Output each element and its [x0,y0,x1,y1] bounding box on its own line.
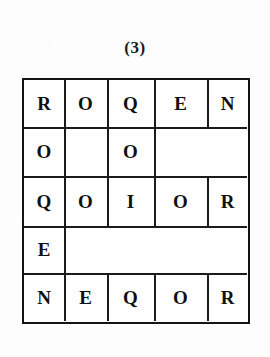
cell-letter: E [174,94,187,113]
grid-cell: E [24,227,64,274]
grid-cell: N [24,274,64,322]
grid-cell: N [207,80,248,128]
grid-cell: R [24,80,64,128]
grid-cell: Q [107,80,154,128]
cell-letter: R [221,192,235,211]
grid-cell-merged [154,128,248,177]
figure-caption: (3) [0,38,270,58]
cell-letter: R [37,94,51,113]
grid-cell: Q [107,274,154,322]
grid-cell-empty [64,128,107,177]
figure-3: (3) R O Q [0,0,270,357]
grid-cell: E [64,274,107,322]
cell-letter: O [78,94,93,113]
cell-letter: N [221,94,235,113]
grid-cell: O [154,274,207,322]
grid-cell-merged [64,227,248,274]
cell-letter: E [79,288,92,307]
grid-cells: R O Q E N O O [24,80,248,322]
grid-cell: O [107,128,154,177]
cell-letter: I [127,192,134,211]
cell-letter: Q [123,288,138,307]
cell-letter: Q [37,192,52,211]
grid-cell: R [207,274,248,322]
cell-letter: O [123,142,138,161]
grid-cell: O [154,177,207,227]
word-grid: R O Q E N O O [22,78,250,324]
grid-cell: Q [24,177,64,227]
grid-cell: O [64,80,107,128]
cell-letter: E [38,240,51,259]
cell-letter: Q [123,94,138,113]
grid-cell: E [154,80,207,128]
grid-cell: I [107,177,154,227]
cell-letter: N [37,288,51,307]
grid-cell: R [207,177,248,227]
cell-letter: O [173,288,188,307]
cell-letter: O [173,192,188,211]
cell-letter: R [221,288,235,307]
cell-letter: O [78,192,93,211]
cell-letter: O [37,142,52,161]
grid-cell: O [64,177,107,227]
grid-cell: O [24,128,64,177]
